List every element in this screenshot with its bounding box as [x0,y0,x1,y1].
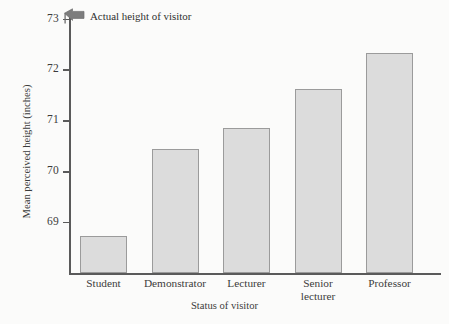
y-axis-tick-label: 69 [33,216,59,228]
y-axis-tick-label: 73 [33,13,59,25]
y-axis-tick-mark [63,120,70,121]
left-arrow-icon [64,8,86,24]
y-axis-line [69,16,71,274]
bar [80,236,127,273]
bar [152,149,199,273]
plot-area: 6970717273 StudentDemonstratorLecturerSe… [0,0,449,324]
y-axis-tick-mark [63,222,70,223]
actual-height-annotation: Actual height of visitor [64,8,191,24]
y-axis-title: Mean perceived height (inches) [21,52,32,252]
y-axis-tick-label: 70 [33,165,59,177]
bar [366,53,413,273]
y-axis-tick-label: 72 [33,63,59,75]
bar [295,89,342,273]
y-axis-tick-mark [63,69,70,70]
x-axis-category-label: Professor [346,277,433,290]
y-axis-tick-label: 71 [33,114,59,126]
actual-height-annotation-label: Actual height of visitor [90,10,191,22]
bar [223,128,270,273]
x-axis-title: Status of visitor [0,300,449,311]
chart-figure: 6970717273 StudentDemonstratorLecturerSe… [0,0,449,324]
x-axis-line [69,273,441,275]
y-axis-tick-mark [63,171,70,172]
